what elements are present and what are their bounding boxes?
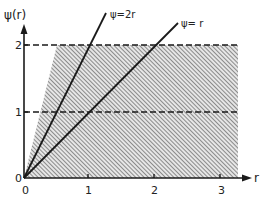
x-tick-label-3: 3 <box>218 184 225 197</box>
x-tick-label-1: 1 <box>85 184 92 197</box>
x-axis-label: r <box>254 171 259 185</box>
y-tick-label-2: 2 <box>15 39 22 52</box>
x-tick-label-0: 0 <box>22 184 29 197</box>
y-tick-label-0: 0 <box>15 172 22 185</box>
x-axis-arrow-icon <box>242 175 252 182</box>
x-tick-label-2: 2 <box>151 184 158 197</box>
line-psi-r-label: ψ= r <box>181 18 204 29</box>
chart-canvas: ψ(r) r ψ=2r ψ= r 0 1 2 3 0 1 2 <box>0 0 273 200</box>
y-axis-label: ψ(r) <box>4 8 26 22</box>
y-tick-label-1: 1 <box>15 106 22 119</box>
line-psi-2r-label: ψ=2r <box>110 9 136 20</box>
y-axis-arrow-icon <box>21 24 28 34</box>
